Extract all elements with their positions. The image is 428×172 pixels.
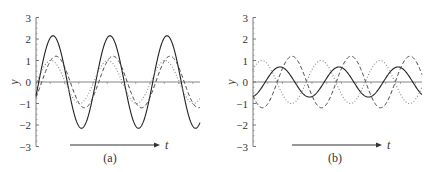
y-tick-label: 3 [243, 12, 249, 24]
y-tick-label: 2 [243, 33, 249, 45]
y-tick-label: −1 [19, 98, 31, 110]
y-tick-label: 0 [243, 76, 249, 88]
y-tick-label: −2 [236, 119, 248, 131]
x-axis-label: t [387, 138, 391, 152]
panel-b-destructive: 3210−1−2−3yt(b) [224, 12, 422, 166]
y-tick-label: 2 [26, 33, 32, 45]
y-tick-label: −1 [236, 98, 248, 110]
arrowhead-icon [154, 143, 160, 148]
y-tick-label: −2 [19, 119, 31, 131]
arrowhead-icon [376, 143, 382, 148]
y-tick-label: −3 [19, 141, 31, 153]
y-tick-label: −3 [236, 141, 248, 153]
x-axis-label: t [165, 138, 169, 152]
panel-caption: (a) [103, 151, 116, 165]
interference-figure: 3210−1−2−3yt(a) 3210−1−2−3yt(b) [0, 0, 428, 172]
panel-caption: (b) [328, 151, 342, 165]
y-axis-label: y [7, 79, 21, 86]
y-tick-label: 1 [243, 55, 249, 67]
panel-a-constructive: 3210−1−2−3yt(a) [7, 12, 200, 166]
y-tick-label: 1 [26, 55, 32, 67]
y-tick-label: 3 [26, 12, 32, 24]
y-tick-label: 0 [26, 76, 32, 88]
y-axis-label: y [224, 79, 238, 86]
